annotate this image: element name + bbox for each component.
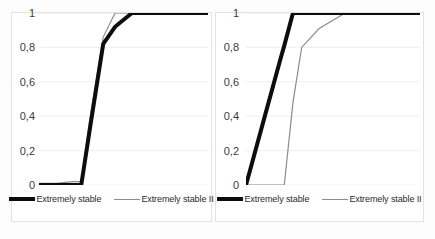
series-line: [246, 13, 420, 185]
series-line: [39, 13, 208, 185]
series-line: [246, 13, 420, 185]
y-axis-tick-label: 1: [233, 8, 239, 19]
y-axis-tick-label: 0,4: [20, 111, 35, 122]
legend-item-secondary-right[interactable]: Extremely stable II: [322, 194, 421, 204]
legend-item-primary-left[interactable]: Extremely stable: [9, 194, 101, 204]
y-axis-tick-label: 0,2: [224, 145, 239, 156]
plot-area-left: [39, 13, 208, 185]
legend-item-primary-right[interactable]: Extremely stable: [217, 194, 309, 204]
y-axis-tick-label: 0,2: [20, 145, 35, 156]
legend-line-icon-primary: [9, 197, 35, 201]
chart-canvas-left: [39, 13, 208, 185]
y-axis-tick-label: 0,6: [224, 76, 239, 87]
y-axis-right: 10,80,60,40,20: [216, 13, 242, 185]
legend-label-primary: Extremely stable: [36, 194, 101, 204]
y-axis-tick-label: 0,4: [224, 111, 239, 122]
series-line: [39, 13, 208, 183]
legend-item-secondary-left[interactable]: Extremely stable II: [114, 194, 213, 204]
y-axis-tick-label: 0,8: [224, 42, 239, 53]
y-axis-tick-label: 1: [29, 8, 35, 19]
y-axis-tick-label: 0,8: [20, 42, 35, 53]
legend-label-secondary: Extremely stable II: [349, 194, 421, 204]
legend-left: Extremely stable Extremely stable II: [12, 189, 211, 209]
plot-area-right: [246, 13, 420, 185]
legend-label-primary: Extremely stable: [244, 194, 309, 204]
chart-canvas-right: [246, 13, 420, 185]
legend-line-icon-secondary: [114, 199, 140, 200]
plot-wrapper-right: 10,80,60,40,20: [216, 13, 423, 185]
chart-panel-left: 10,80,60,40,20 Extremely stable Extremel…: [11, 12, 212, 222]
plot-wrapper-left: 10,80,60,40,20: [12, 13, 211, 185]
y-axis-tick-label: 0,6: [20, 76, 35, 87]
legend-line-icon-primary: [217, 197, 243, 201]
legend-line-icon-secondary: [322, 199, 348, 200]
chart-panel-right: 10,80,60,40,20 Extremely stable Extremel…: [215, 12, 424, 222]
legend-right: Extremely stable Extremely stable II: [216, 189, 423, 209]
y-axis-left: 10,80,60,40,20: [12, 13, 38, 185]
legend-label-secondary: Extremely stable II: [141, 194, 213, 204]
figure-container: 10,80,60,40,20 Extremely stable Extremel…: [0, 0, 435, 239]
